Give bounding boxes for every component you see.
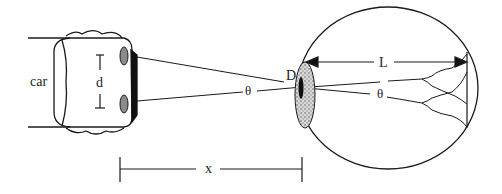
car-roof-outline xyxy=(66,31,122,38)
label-L: L xyxy=(379,55,388,70)
car-bottom-outline xyxy=(66,128,124,134)
label-car: car xyxy=(30,74,47,89)
label-x: x xyxy=(205,161,212,176)
lens xyxy=(295,62,315,128)
car-bumper xyxy=(131,50,137,122)
eye-resolution-diagram: d car θ D L θ xyxy=(0,0,502,194)
label-d: d xyxy=(96,75,103,90)
label-theta-inside: θ xyxy=(377,86,383,101)
headlight-bottom xyxy=(120,95,128,113)
car-windshield xyxy=(62,40,67,126)
label-D: D xyxy=(286,68,296,83)
eyeball xyxy=(298,7,478,169)
headlight-top xyxy=(120,47,128,65)
label-theta-outside: θ xyxy=(245,83,251,98)
pupil xyxy=(299,77,304,99)
